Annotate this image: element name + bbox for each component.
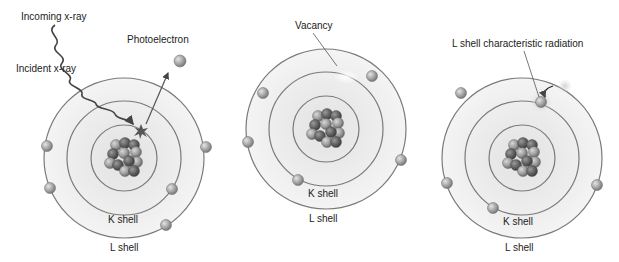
- vacancy-glow-icon: [333, 70, 359, 84]
- electron-icon: [367, 71, 378, 82]
- atom-2: [243, 49, 407, 209]
- panel-vacancy: Vacancy K shell L shell: [243, 20, 407, 224]
- label-k-shell: K shell: [308, 188, 338, 199]
- electron-icon: [488, 203, 499, 214]
- label-l-shell: L shell: [309, 213, 338, 224]
- label-photoelectron: Photoelectron: [127, 34, 189, 45]
- electron-icon: [293, 175, 304, 186]
- label-l-shell: L shell: [110, 242, 139, 253]
- electron-icon: [258, 88, 269, 99]
- electron-icon: [45, 183, 56, 194]
- label-l-shell: L shell: [505, 242, 534, 253]
- electron-icon: [161, 220, 172, 231]
- photoelectric-effect-diagram: Incoming x-ray Incident x-ray Photoelect…: [0, 0, 619, 262]
- vacated-l-position-icon: [558, 79, 572, 93]
- label-k-shell: K shell: [503, 216, 533, 227]
- label-incident-xray: Incident x-ray: [16, 63, 76, 74]
- electron-icon: [592, 180, 603, 191]
- electron-icon: [396, 155, 407, 166]
- electron-icon: [201, 142, 212, 153]
- atom-3: [442, 78, 603, 238]
- label-incoming-xray: Incoming x-ray: [21, 11, 87, 22]
- panel-characteristic-radiation: L shell characteristic radiation K shell…: [442, 38, 603, 253]
- photoelectron-icon: [174, 55, 186, 67]
- label-k-shell: K shell: [108, 214, 138, 225]
- label-vacancy: Vacancy: [295, 20, 333, 31]
- label-characteristic-radiation: L shell characteristic radiation: [452, 38, 583, 49]
- electron-icon: [167, 184, 178, 195]
- electron-icon: [243, 137, 254, 148]
- panel-photoelectric-absorption: Incoming x-ray Incident x-ray Photoelect…: [16, 11, 212, 253]
- electron-icon: [442, 178, 453, 189]
- electron-icon: [42, 141, 53, 152]
- electron-icon: [456, 88, 467, 99]
- electron-icon: [536, 97, 547, 108]
